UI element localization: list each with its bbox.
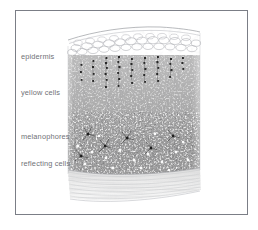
epidermis-layer <box>60 24 210 60</box>
skin-cross-section-figure: epidermis yellow cells melanophores refl… <box>0 0 258 230</box>
label-yellow-cells: yellow cells <box>21 89 60 96</box>
illustration-plate <box>0 0 258 230</box>
label-reflecting-cells: reflecting cells <box>21 160 70 167</box>
label-epidermis: epidermis <box>21 53 54 60</box>
label-melanophores: melanophores <box>21 133 70 140</box>
dermis-block <box>60 50 210 188</box>
